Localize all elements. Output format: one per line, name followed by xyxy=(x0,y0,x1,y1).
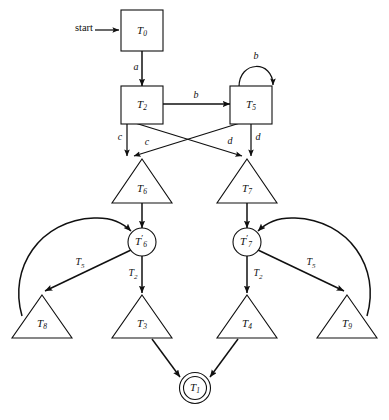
automaton-canvas: T0 T2 T5 T6 T7 xyxy=(0,0,389,420)
edge-label-t5-left: T5 xyxy=(75,256,85,269)
edge-t4-to-t1 xyxy=(210,339,238,377)
node-t7-sub: 7 xyxy=(248,187,252,196)
node-t4-sub: 4 xyxy=(248,322,252,331)
edge-label-b-t2-t5: b xyxy=(194,89,199,100)
node-t2-sub: 2 xyxy=(143,103,147,112)
edge-t3-to-t1 xyxy=(152,339,180,377)
node-t8[interactable]: T8 xyxy=(12,295,72,338)
automaton-diagram: T0 T2 T5 T6 T7 xyxy=(0,0,389,420)
node-t6prime[interactable]: T′6 xyxy=(128,228,156,256)
node-t7prime[interactable]: T′7 xyxy=(233,228,261,256)
node-t0[interactable]: T0 xyxy=(121,10,163,51)
node-t9-sub: 9 xyxy=(348,322,352,331)
node-t5-sub: 5 xyxy=(252,103,256,112)
node-t9[interactable]: T9 xyxy=(317,295,377,338)
node-t7[interactable]: T7 xyxy=(217,159,277,203)
node-t1-accepting[interactable]: T1 xyxy=(180,373,211,404)
edge-label-t2-left: T2 xyxy=(128,267,138,280)
edge-label-t2-right: T2 xyxy=(253,267,263,280)
edge-label-c-t2-t6: c xyxy=(118,131,123,142)
node-t6prime-sub: 6 xyxy=(143,240,147,249)
edge-t6prime-to-t8 xyxy=(45,250,131,291)
edge-t7prime-to-t9 xyxy=(258,250,344,291)
node-t4[interactable]: T4 xyxy=(217,295,277,338)
edge-label-c-t5-t6: c xyxy=(145,136,150,147)
node-t5[interactable]: T5 xyxy=(230,86,272,124)
node-t6-sub: 6 xyxy=(143,187,147,196)
node-t7prime-sub: 7 xyxy=(248,240,252,249)
node-t1-sub: 1 xyxy=(196,386,200,395)
edge-label-d-t2-t7: d xyxy=(228,135,234,146)
node-t6[interactable]: T6 xyxy=(112,159,172,203)
edge-t5-self-loop xyxy=(239,66,273,87)
edge-label-t5-right: T5 xyxy=(306,256,316,269)
node-t2[interactable]: T2 xyxy=(121,86,163,124)
start-label: start xyxy=(75,22,93,33)
edge-label-b-self-loop: b xyxy=(254,50,259,61)
node-t0-sub: 0 xyxy=(143,29,147,38)
node-t3-sub: 3 xyxy=(142,322,147,331)
edge-label-d-t5-t7: d xyxy=(256,131,262,142)
node-t3[interactable]: T3 xyxy=(112,295,172,338)
node-t8-sub: 8 xyxy=(43,322,47,331)
edge-label-a: a xyxy=(134,61,139,72)
